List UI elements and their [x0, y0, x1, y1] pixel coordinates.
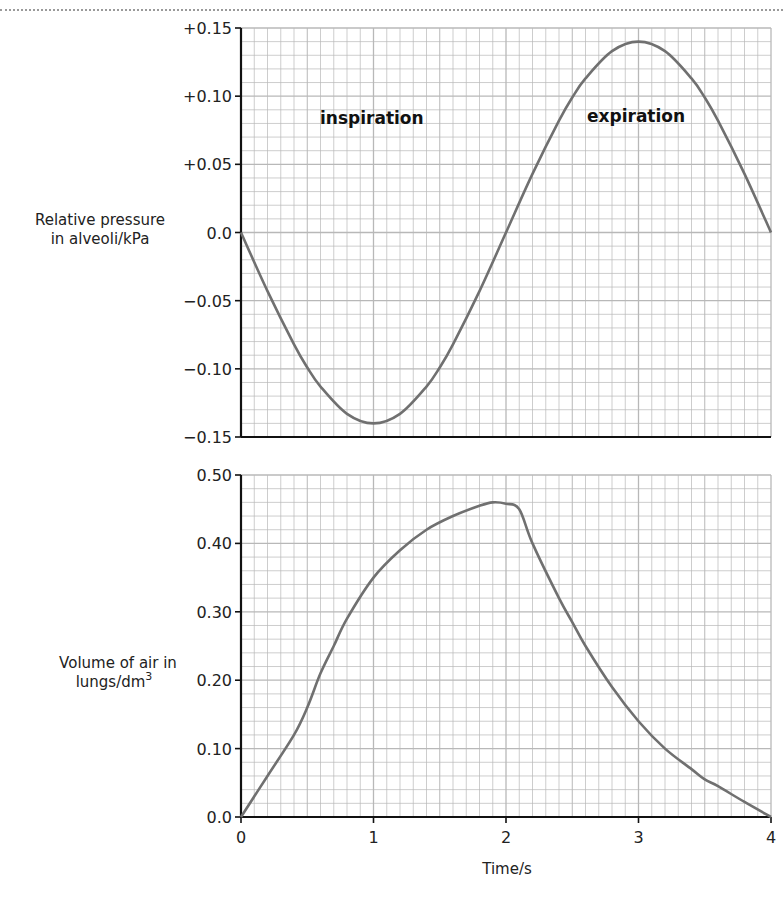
- y-tick-label: 0.50: [196, 466, 232, 485]
- pressure-ylabel-line2: in alveoli/kPa: [51, 230, 150, 248]
- y-tick-label: 0.10: [196, 740, 232, 759]
- pressure-ylabel-line1: Relative pressure: [35, 211, 165, 229]
- y-tick-label: 0.30: [196, 603, 232, 622]
- expiration-label: expiration: [587, 106, 685, 126]
- y-tick-label: 0.0: [207, 808, 232, 827]
- y-tick-label: +0.05: [183, 155, 232, 174]
- volume-ylabel-line1: Volume of air in: [59, 654, 177, 672]
- y-tick-label: −0.05: [183, 292, 232, 311]
- y-tick-label: 0.20: [196, 671, 232, 690]
- y-tick-label: 0.0: [207, 224, 232, 243]
- x-tick-label: 1: [368, 828, 378, 847]
- x-tick-label: 3: [633, 828, 643, 847]
- y-tick-label: −0.10: [183, 360, 232, 379]
- volume-chart: 0.500.400.300.200.100.001234: [196, 466, 776, 847]
- chart-canvas: +0.15+0.10+0.050.0−0.05−0.10−0.15 0.500.…: [0, 0, 783, 900]
- x-tick-label: 4: [766, 828, 776, 847]
- x-tick-label: 2: [501, 828, 511, 847]
- x-axis-title: Time/s: [481, 860, 532, 878]
- volume-ylabel-line2: lungs/dm3: [76, 670, 153, 691]
- y-tick-label: −0.15: [183, 428, 232, 447]
- x-tick-label: 0: [236, 828, 246, 847]
- inspiration-label: inspiration: [320, 108, 424, 128]
- y-tick-label: +0.10: [183, 87, 232, 106]
- y-tick-label: +0.15: [183, 19, 232, 38]
- pressure-chart: +0.15+0.10+0.050.0−0.05−0.10−0.15: [183, 19, 771, 447]
- y-tick-label: 0.40: [196, 534, 232, 553]
